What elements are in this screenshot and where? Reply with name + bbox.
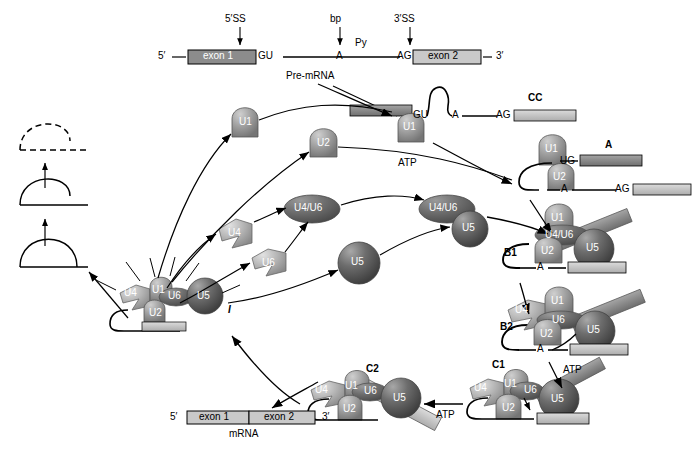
b1-branch-a: A [537, 262, 544, 272]
free-u4-label: U4 [228, 228, 241, 238]
b1-u1-label: U1 [551, 213, 564, 223]
premrna-exon2-label: exon 2 [428, 51, 458, 61]
label-complex-b1: B1 [504, 248, 517, 258]
label-complex-c1: C1 [492, 360, 505, 370]
a-branch-a: A [561, 184, 568, 194]
b1-u4u6-label: U4/U6 [545, 230, 573, 240]
i-u4-label: U4 [124, 288, 137, 298]
c2-u4-label: U4 [315, 385, 328, 395]
spliceosome-diagram: 5′SS bp 3′SS 5′ exon 1 GU A Py AG exon 2… [0, 0, 695, 460]
label-3ss: 3′SS [394, 14, 415, 24]
premrna-5prime: 5′ [158, 51, 165, 61]
b2-branch-a: A [537, 344, 544, 354]
premrna-gu: GU [258, 51, 273, 61]
c2-u5-label: U5 [393, 393, 406, 403]
label-atp-2: ATP [563, 365, 582, 375]
free-u4u6-right-label: U4/U6 [429, 203, 457, 213]
b2-u1-label: U1 [551, 296, 564, 306]
label-complex-c2: C2 [366, 364, 379, 374]
b1-u5-label: U5 [586, 243, 599, 253]
cc-ag: AG [496, 110, 510, 120]
a-ag: AG [615, 184, 629, 194]
label-atp-1: ATP [398, 158, 417, 168]
label-bp: bp [330, 14, 341, 24]
mrna-5prime: 5′ [170, 412, 177, 422]
c2-u6-label: U6 [364, 386, 377, 396]
i-u5-label: U5 [197, 291, 210, 301]
label-complex-a: A [605, 140, 612, 150]
c1-u4-label: U4 [474, 383, 487, 393]
mrna-3prime: 3′ [322, 412, 329, 422]
cc-branch-a: A [452, 110, 459, 120]
label-complex-i: I [228, 305, 231, 315]
premrna-py: Py [355, 38, 367, 48]
mrna-caption: mRNA [229, 429, 258, 439]
premrna-exon1-label: exon 1 [203, 51, 233, 61]
free-u1-label: U1 [239, 117, 252, 127]
b2-u6-label: U6 [552, 315, 565, 325]
label-5ss: 5′SS [225, 14, 246, 24]
c1-u2-label: U2 [502, 403, 515, 413]
c2-u2-label: U2 [343, 404, 356, 414]
free-u5-label: U5 [351, 257, 364, 267]
mrna-exon1-label: exon 1 [199, 412, 229, 422]
mrna-exon2-label: exon 2 [264, 412, 294, 422]
premrna-3prime: 3′ [496, 51, 503, 61]
a-u1-label: U1 [545, 144, 558, 154]
cc-u1-label: U1 [403, 122, 416, 132]
free-u4u6-label: U4/U6 [294, 203, 322, 213]
label-complex-b2: B2 [500, 322, 513, 332]
c1-u5-label: U5 [551, 394, 564, 404]
c2-u1-label: U1 [345, 381, 358, 391]
intron-products [20, 124, 128, 318]
c1-u6-label: U6 [524, 385, 537, 395]
label-atp-3: ATP [436, 410, 455, 420]
i-u6-label: U6 [168, 291, 181, 301]
i-u1-label: U1 [152, 285, 165, 295]
b2-u2-label: U2 [540, 329, 553, 339]
b2-u5-label: U5 [587, 325, 600, 335]
b2-u4-label: U4 [515, 305, 528, 315]
i-u2-label: U2 [149, 308, 162, 318]
a-ug: UG [560, 156, 575, 166]
b1-u2-label: U2 [541, 246, 554, 256]
c1-u1-label: U1 [504, 379, 517, 389]
a-u2-label: U2 [553, 172, 566, 182]
free-u6-label: U6 [262, 258, 275, 268]
free-u2-label: U2 [317, 138, 330, 148]
premrna-branch-a: A [336, 51, 343, 61]
free-u5-right-label: U5 [462, 223, 475, 233]
premrna-ag: AG [397, 51, 411, 61]
premrna-caption: Pre-mRNA [286, 71, 334, 81]
diagram-canvas [0, 0, 695, 460]
cc-gu: GU [413, 110, 428, 120]
label-complex-cc: CC [528, 93, 542, 103]
